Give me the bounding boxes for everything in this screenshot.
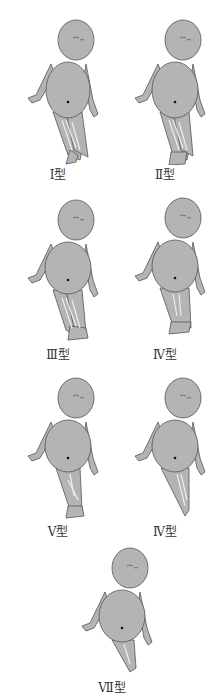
figure-panel-type-1: Ⅰ型 <box>8 0 108 180</box>
figure-panel-type-6: Ⅳ型 <box>115 370 215 550</box>
baby-illustration-icon <box>8 0 108 165</box>
type-label: Ⅳ型 <box>115 522 215 539</box>
type-label: Ⅰ型 <box>8 165 108 182</box>
type-label: Ⅳ型 <box>115 345 215 362</box>
figure-panel-type-7: Ⅶ型 <box>62 540 162 696</box>
baby-illustration-icon <box>8 370 108 535</box>
baby-illustration-icon <box>115 370 215 535</box>
baby-illustration-icon <box>115 0 215 165</box>
baby-illustration-icon <box>115 190 215 355</box>
figure-panel-type-2: Ⅱ型 <box>115 0 215 180</box>
figure-panel-type-3: Ⅲ型 <box>8 190 108 370</box>
baby-illustration-icon <box>62 540 162 696</box>
type-label: Ⅴ型 <box>8 522 108 539</box>
type-label: Ⅶ型 <box>62 678 162 695</box>
figure-panel-type-4: Ⅳ型 <box>115 190 215 370</box>
type-label: Ⅱ型 <box>115 165 215 182</box>
baby-illustration-icon <box>8 190 108 355</box>
figure-panel-type-5: Ⅴ型 <box>8 370 108 550</box>
type-label: Ⅲ型 <box>8 345 108 362</box>
